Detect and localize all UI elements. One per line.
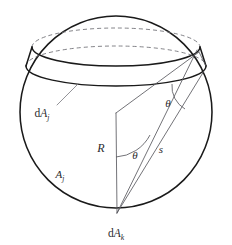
label-dAk: dAk (108, 227, 125, 242)
label-theta-lower: θ (132, 149, 138, 161)
radius-line (116, 113, 117, 213)
label-s: s (159, 143, 163, 155)
upper-ring-visible-arc (32, 47, 200, 66)
sphere-outline (20, 16, 212, 208)
upper-ring-hidden-arc (32, 28, 200, 47)
label-Aj: Aj (55, 168, 65, 183)
lower-ring-visible-arc (26, 66, 206, 86)
band-left-edge (26, 47, 32, 66)
label-theta-upper: θ (165, 97, 171, 109)
chord-s-line (117, 71, 204, 213)
label-R: R (96, 141, 105, 155)
label-dAj-sub: j (46, 113, 49, 122)
lower-ring-hidden-arc (26, 46, 206, 66)
dAj-leader-line (57, 84, 78, 105)
label-dAk-sub: k (121, 233, 125, 242)
centre-to-upper-ring-line (116, 52, 199, 113)
sphere-zone-diagram: dAj Aj R θ θ s dAk (0, 0, 232, 245)
label-Aj-sub: j (61, 174, 64, 183)
cone-generator-line (117, 50, 197, 213)
figure-container: dAj Aj R θ θ s dAk (0, 0, 232, 245)
label-dAj: dAj (35, 107, 50, 122)
